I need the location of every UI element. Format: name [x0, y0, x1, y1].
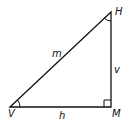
angle-arc-v — [18, 100, 21, 107]
vertex-label-m: M — [112, 108, 121, 119]
side-label-h: h — [59, 110, 65, 121]
triangle-diagram: H V M m h v — [0, 0, 131, 129]
angle-arc-h — [105, 18, 112, 21]
right-angle-mark — [104, 100, 111, 107]
side-label-m: m — [52, 48, 62, 59]
triangle-outline — [10, 12, 111, 107]
vertex-label-h: H — [115, 6, 123, 17]
vertex-label-v: V — [8, 108, 16, 119]
side-label-v: v — [114, 64, 121, 75]
